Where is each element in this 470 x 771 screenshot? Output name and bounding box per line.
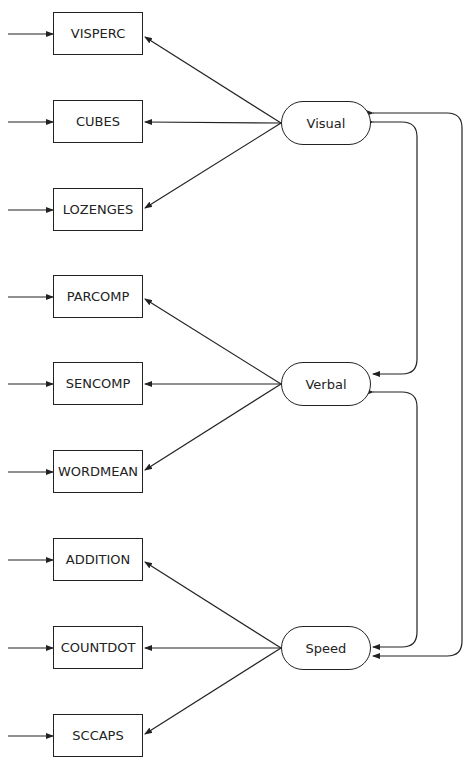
indicator-cubes: CUBES <box>53 100 143 143</box>
factor-verbal: Verbal <box>281 362 371 406</box>
indicator-sencomp: SENCOMP <box>53 362 143 405</box>
indicator-sccaps: SCCAPS <box>53 714 143 757</box>
indicator-countdot: COUNTDOT <box>53 626 143 669</box>
indicator-parcomp: PARCOMP <box>53 275 143 318</box>
factor-speed: Speed <box>281 626 371 670</box>
factor-visual: Visual <box>281 101 371 145</box>
indicator-lozenges: LOZENGES <box>53 188 143 231</box>
indicator-visperc: VISPERC <box>53 12 143 55</box>
indicator-wordmean: WORDMEAN <box>53 450 143 493</box>
indicator-addition: ADDITION <box>53 538 143 581</box>
